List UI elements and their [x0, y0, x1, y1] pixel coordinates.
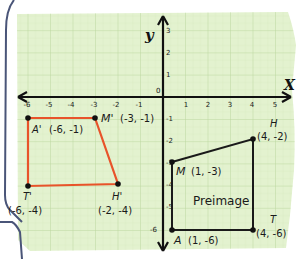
vertex-m-prime	[92, 115, 98, 121]
svg-text:5: 5	[273, 101, 277, 109]
svg-text:2: 2	[166, 49, 170, 57]
coord-h-prime: (-2, -4)	[98, 205, 132, 216]
coordinate-plane-diagram: X y 0 -6 -5 -4 -3 -2 -1 1 2 3 4 5 3 2 1 …	[0, 0, 301, 259]
label-m-prime: M'	[101, 112, 114, 125]
x-axis-label: X	[283, 77, 296, 93]
origin-label: 0	[156, 87, 160, 95]
coord-h: (4, -2)	[257, 131, 288, 142]
label-a: A	[173, 234, 182, 247]
svg-text:-1: -1	[136, 101, 143, 109]
coord-a-prime: (-6, -1)	[49, 124, 83, 135]
svg-text:1: 1	[184, 101, 188, 109]
label-m: M	[176, 165, 186, 178]
svg-text:4: 4	[250, 101, 255, 109]
vertex-t-prime	[25, 183, 31, 189]
coord-a: (1, -6)	[188, 235, 219, 246]
svg-text:3: 3	[228, 101, 232, 109]
svg-text:2: 2	[206, 101, 210, 109]
y-axis-label: y	[144, 26, 155, 44]
label-t: T	[270, 214, 277, 225]
svg-text:-3: -3	[91, 101, 98, 109]
label-h: H	[270, 118, 278, 129]
svg-text:-2: -2	[113, 101, 120, 109]
coord-m-prime: (-3, -1)	[120, 113, 154, 124]
vertex-h	[250, 136, 256, 142]
svg-text:-6: -6	[150, 226, 158, 234]
label-h-prime: H'	[112, 191, 122, 202]
svg-text:-6: -6	[24, 101, 32, 109]
svg-text:-5: -5	[46, 101, 53, 109]
vertex-t	[250, 227, 256, 233]
coord-m: (1, -3)	[191, 166, 222, 177]
vertex-a-prime	[25, 115, 31, 121]
vertex-m	[169, 159, 175, 165]
preimage-label: Preimage	[193, 194, 249, 208]
vertex-a	[169, 227, 175, 233]
vertex-h-prime	[115, 181, 121, 187]
svg-text:-2: -2	[166, 137, 173, 145]
label-t-prime: T'	[23, 191, 32, 202]
svg-text:-1: -1	[166, 115, 173, 123]
coord-t: (4, -6)	[256, 228, 287, 239]
label-a-prime: A'	[31, 124, 42, 135]
svg-text:-4: -4	[68, 101, 76, 109]
svg-text:3: 3	[166, 27, 170, 35]
svg-text:1: 1	[166, 71, 170, 79]
coord-t-prime: (-6, -4)	[8, 205, 42, 216]
